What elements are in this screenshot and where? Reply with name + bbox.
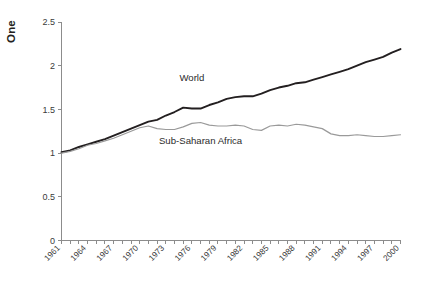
x-tick-label: 1997 — [356, 243, 376, 263]
x-tick-label: 1967 — [95, 243, 115, 263]
x-tick-label: 1985 — [251, 243, 271, 263]
y-axis: 00.511.522.5 — [42, 17, 61, 246]
chart-container: One 00.511.522.5 19611964196719701973197… — [0, 0, 430, 286]
x-tick-group: 1961196419671970197319761979198219851988… — [43, 241, 402, 263]
y-tick-label: 1 — [50, 148, 55, 158]
y-tick-label: 0.5 — [42, 192, 55, 202]
x-tick-label: 1979 — [199, 243, 219, 263]
x-tick-label: 1964 — [69, 243, 89, 263]
x-tick-label: 1988 — [277, 243, 297, 263]
x-tick-label: 1961 — [43, 243, 63, 263]
y-tick-label: 1.5 — [42, 105, 55, 115]
x-tick-label: 1982 — [225, 243, 245, 263]
x-tick-label: 2000 — [382, 243, 402, 263]
line-chart-plot: 00.511.522.5 196119641967197019731976197… — [0, 0, 430, 286]
series-label-world: World — [179, 72, 204, 83]
y-tick-group: 00.511.522.5 — [42, 17, 61, 246]
x-tick-label: 1991 — [303, 243, 323, 263]
series-label-sub-saharan-africa: Sub-Saharan Africa — [159, 135, 243, 146]
x-tick-label: 1976 — [173, 243, 193, 263]
x-axis: 1961196419671970197319761979198219851988… — [43, 241, 402, 263]
x-tick-label: 1973 — [147, 243, 167, 263]
y-tick-label: 2.5 — [42, 17, 55, 27]
y-tick-label: 2 — [50, 61, 55, 71]
x-tick-label: 1994 — [330, 243, 350, 263]
x-tick-label: 1970 — [121, 243, 141, 263]
